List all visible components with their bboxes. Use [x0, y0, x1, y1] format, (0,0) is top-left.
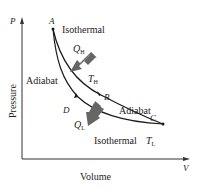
point-d-label: D: [62, 105, 70, 115]
carnot-cycle-diagram: P V Volume Pressure A B C D Isothermal A…: [0, 0, 200, 191]
adiabat-left-curve: [53, 29, 78, 97]
point-c-label: C: [150, 113, 157, 123]
adiabat-left-label: Adiabat: [26, 75, 58, 86]
point-b-label: B: [104, 92, 110, 102]
adiabat-right-label: Adiabat: [119, 105, 151, 116]
isothermal-low-label: Isothermal: [94, 135, 137, 146]
temperature-high-label: TH: [88, 73, 99, 85]
x-axis-label: Volume: [80, 171, 111, 182]
heat-out-label: QL: [74, 119, 85, 131]
temperature-low-label: TL: [146, 135, 156, 147]
y-axis-label: Pressure: [7, 84, 18, 118]
heat-in-label: QH: [73, 43, 85, 55]
y-axis-symbol: P: [9, 16, 16, 26]
x-axis-arrowhead-icon: [183, 157, 190, 161]
point-a-marker: [52, 28, 55, 31]
isothermal-high-label: Isothermal: [62, 24, 105, 35]
x-axis-symbol: V: [183, 163, 190, 173]
heat-in-arrow-icon: [70, 52, 97, 72]
point-a-label: A: [48, 16, 55, 26]
y-axis-arrowhead-icon: [20, 17, 24, 24]
point-c-marker: [162, 123, 165, 126]
